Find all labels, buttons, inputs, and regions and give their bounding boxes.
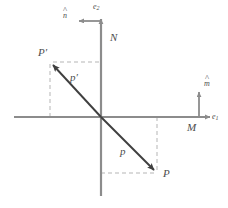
normal-label-m-hat: m: [204, 80, 210, 88]
vector-diagram-figure: e2 e1 n m N M P′ P p′ p: [0, 0, 228, 208]
plane-label-M: M: [187, 122, 196, 133]
point-label-P-prime: P′: [38, 47, 47, 58]
vector-label-p: p: [120, 146, 126, 157]
plane-label-N: N: [110, 32, 117, 43]
basis-label-e2: e2: [93, 3, 100, 11]
m-hat-glyph: m: [204, 80, 210, 88]
unit-normals: [79, 21, 199, 117]
basis-label-e1: e1: [212, 113, 219, 121]
point-label-P: P: [163, 168, 170, 179]
n-hat-glyph: n: [63, 12, 67, 20]
normal-label-n-hat: n: [63, 12, 67, 20]
vector-label-p-prime: p′: [70, 72, 78, 83]
vector-p: [101, 117, 154, 170]
